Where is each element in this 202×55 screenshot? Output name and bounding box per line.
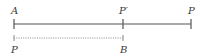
label-p-bottom: P [10,44,18,55]
label-b: B [119,44,127,55]
label-p-top: P [187,5,195,16]
label-a: A [10,5,18,16]
label-p-prime: P′ [118,5,129,16]
segment-diagram: A P′ P P B [0,0,202,55]
